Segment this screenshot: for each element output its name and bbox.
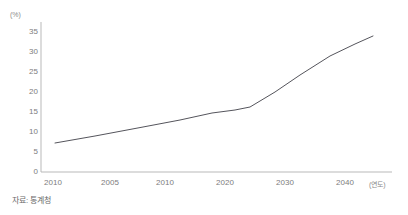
chart-container: (%) 35 30 25 20 15 10 5 0 2010 2005 2010…: [0, 0, 408, 215]
data-line-series-1: [55, 36, 373, 143]
plot-area: [0, 0, 408, 215]
source-note: 자료: 통계청: [12, 194, 51, 205]
